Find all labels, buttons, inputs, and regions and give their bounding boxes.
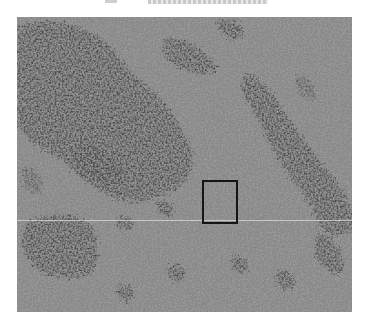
caption-fragment (148, 0, 268, 4)
scan-line (17, 220, 352, 221)
micrograph-texture (17, 17, 352, 312)
micrograph-image (17, 17, 352, 312)
region-of-interest-box (202, 180, 238, 224)
caption-fragment-left (105, 0, 117, 3)
